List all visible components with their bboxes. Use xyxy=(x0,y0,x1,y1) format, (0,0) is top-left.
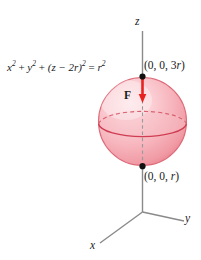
diagram-canvas xyxy=(0,0,201,260)
sphere-force-diagram: x2 + y2 + (z − 2r)2 = r2 (0, 0, 3r) (0, … xyxy=(0,0,201,260)
point-top-suffix: ) xyxy=(181,59,185,71)
equation-z: (z − 2r) xyxy=(48,61,82,73)
force-vector-label: F xyxy=(124,90,131,102)
equation-r-exponent: 2 xyxy=(102,59,106,68)
y-axis-label: y xyxy=(185,213,190,225)
point-label-top: (0, 0, 3r) xyxy=(144,60,185,72)
point-bottom-prefix: (0, 0, xyxy=(144,170,171,182)
point-marker-top xyxy=(139,73,145,79)
y-axis-line xyxy=(143,212,185,221)
point-top-prefix: (0, 0, 3 xyxy=(144,59,177,71)
point-bottom-suffix: ) xyxy=(175,170,179,182)
x-axis-line xyxy=(100,212,143,243)
x-axis-label: x xyxy=(90,240,95,252)
z-axis-label: z xyxy=(135,16,139,28)
sphere-equation-label: x2 + y2 + (z − 2r)2 = r2 xyxy=(7,60,106,73)
point-marker-bottom xyxy=(139,163,145,169)
point-label-bottom: (0, 0, r) xyxy=(144,171,179,183)
